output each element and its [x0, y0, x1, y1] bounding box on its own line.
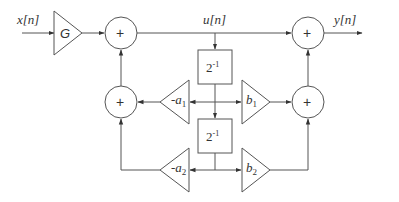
output-signal-label: y[n] [332, 12, 356, 27]
plus-icon: + [303, 25, 311, 41]
delay-block-2: 2-1 [198, 119, 232, 153]
adder-top-right: + [292, 17, 324, 49]
gain-g-label: G [60, 26, 70, 41]
gain-b2-block: b2 [242, 148, 270, 192]
plus-icon: + [303, 94, 311, 110]
block-diagram: x[n] G + u[n] + y[n] 2-1 -a1 + [0, 0, 399, 202]
plus-icon: + [116, 94, 124, 110]
plus-icon: + [116, 25, 124, 41]
input-signal-label: x[n] [16, 12, 39, 27]
intermediate-signal-label: u[n] [203, 12, 226, 27]
adder-mid-right: + [292, 86, 324, 118]
delay-block-1: 2-1 [198, 50, 232, 84]
gain-a2-block: -a2 [160, 148, 189, 192]
gain-b1-block: b1 [242, 80, 270, 124]
a2-feedback-wire [121, 119, 160, 170]
adder-mid-left: + [105, 86, 137, 118]
adder-top-left: + [105, 17, 137, 49]
gain-a1-block: -a1 [160, 80, 189, 124]
b2-feedforward-wire [270, 119, 308, 170]
gain-g-block: G [54, 11, 82, 55]
